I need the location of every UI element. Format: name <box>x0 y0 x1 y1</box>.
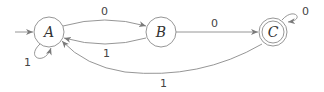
state-a: A <box>34 17 64 47</box>
edge-c-self-loop <box>282 14 297 22</box>
state-a-label: A <box>42 24 54 40</box>
edge-label-c-self-loop: 0 <box>302 5 309 18</box>
state-diagram: 0 1 0 1 1 0 A B C <box>0 0 324 92</box>
state-b-label: B <box>155 24 166 40</box>
edge-label-b-to-a: 1 <box>103 47 110 60</box>
edge-label-a-self-loop: 1 <box>24 56 31 69</box>
state-b: B <box>146 17 176 47</box>
edge-label-a-to-b: 0 <box>101 5 108 18</box>
edge-b-to-a <box>64 38 146 44</box>
edge-label-c-to-a: 1 <box>160 77 167 90</box>
edge-label-b-to-c: 0 <box>211 17 218 30</box>
state-c: C <box>259 18 287 46</box>
state-c-label: C <box>268 24 279 40</box>
edge-a-to-b <box>63 20 146 26</box>
